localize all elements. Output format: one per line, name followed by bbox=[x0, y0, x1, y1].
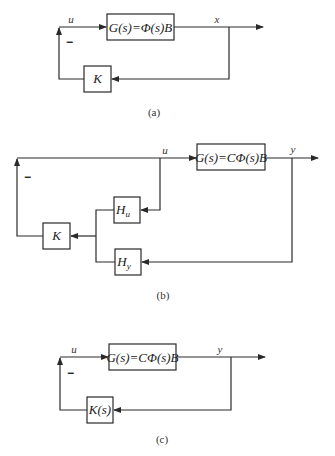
controller-label: K bbox=[92, 71, 103, 86]
diagram-b: u G(s)=CΦ(s)B y Hu Hy K − (b) bbox=[17, 143, 318, 302]
diagram-a: G(s)=Φ(s)B x u K − (a) bbox=[59, 13, 263, 119]
u-tap-line bbox=[141, 158, 160, 210]
minus-sign: − bbox=[24, 170, 31, 184]
minus-sign: − bbox=[66, 35, 73, 49]
caption-a: (a) bbox=[148, 106, 161, 119]
minus-sign: − bbox=[67, 366, 74, 380]
plant-label: G(s)=CΦ(s)B bbox=[195, 150, 267, 165]
y-tap-line bbox=[142, 158, 292, 262]
caption-b: (b) bbox=[157, 289, 170, 302]
diagram-c: u G(s)=CΦ(s)B y K(s) − (c) bbox=[60, 343, 265, 446]
controller-label: K(s) bbox=[88, 402, 111, 417]
block-diagrams: G(s)=Φ(s)B x u K − (a) u G(s)=CΦ(s)B y H… bbox=[0, 0, 335, 456]
input-signal-label: u bbox=[68, 13, 74, 25]
input-signal-label: u bbox=[162, 144, 168, 156]
output-signal-label: x bbox=[214, 13, 220, 25]
output-signal-label: y bbox=[217, 343, 223, 355]
plant-label: G(s)=Φ(s)B bbox=[109, 20, 172, 35]
input-signal-label: u bbox=[71, 343, 77, 355]
caption-c: (c) bbox=[156, 433, 169, 446]
plant-label: G(s)=CΦ(s)B bbox=[106, 350, 178, 365]
filter-sum-line bbox=[96, 210, 115, 262]
controller-label: K bbox=[51, 228, 62, 243]
output-signal-label: y bbox=[290, 143, 296, 155]
